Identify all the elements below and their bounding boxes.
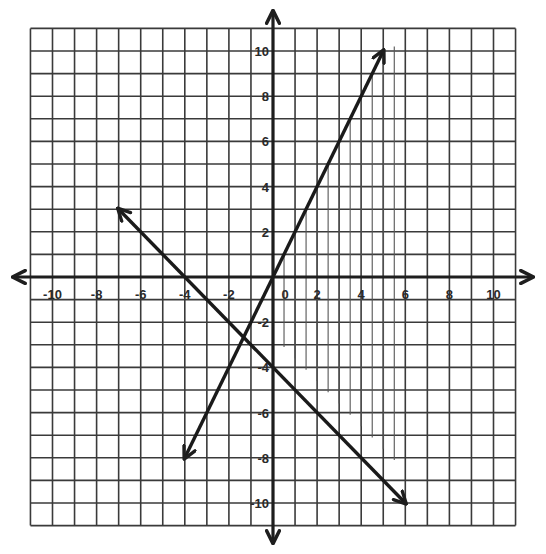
y-tick-label: 10 — [255, 44, 269, 59]
x-tick-label: -6 — [135, 287, 147, 302]
x-tick-label: -2 — [223, 287, 235, 302]
x-tick-label: -10 — [43, 287, 62, 302]
y-tick-label: 6 — [262, 134, 269, 149]
y-tick-label: -6 — [257, 406, 269, 421]
y-tick-label: 8 — [262, 89, 269, 104]
x-tick-label: 0 — [281, 287, 288, 302]
y-tick-label: 2 — [262, 225, 269, 240]
x-tick-label: 8 — [446, 287, 453, 302]
x-tick-label: 4 — [358, 287, 366, 302]
y-tick-label: -8 — [257, 451, 269, 466]
y-tick-label: -4 — [257, 360, 269, 375]
x-tick-label: 10 — [486, 287, 500, 302]
x-tick-label: 2 — [313, 287, 320, 302]
y-tick-label: -2 — [257, 315, 269, 330]
coordinate-plane: -10-8-6-4-20246810108642-2-4-6-8-10 — [0, 0, 546, 554]
y-tick-label: 4 — [262, 180, 270, 195]
x-tick-label: 6 — [402, 287, 409, 302]
x-tick-label: -8 — [91, 287, 103, 302]
x-tick-label: -4 — [179, 287, 191, 302]
y-tick-label: -10 — [250, 496, 269, 511]
